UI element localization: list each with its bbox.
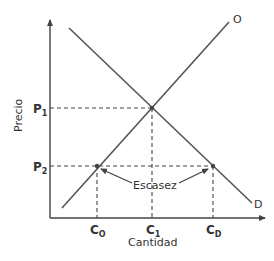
shortage-arrow-left xyxy=(101,169,132,183)
svg-text:CO: CO xyxy=(90,223,106,239)
tick-c0: CO xyxy=(90,223,106,239)
shortage-label: Escasez xyxy=(133,179,177,192)
tick-c1: C1 xyxy=(146,223,161,239)
y-axis-title: Precio xyxy=(12,98,25,132)
shortage-arrow-right xyxy=(179,169,208,183)
svg-text:P2: P2 xyxy=(33,160,47,176)
tick-cd: CD xyxy=(206,223,222,239)
supply-point-p2 xyxy=(95,164,99,168)
tick-p1: P1 xyxy=(33,102,48,118)
supply-demand-diagram: Escasez O D Precio Cantidad P1 P2 CO C1 … xyxy=(0,0,274,261)
guide-lines xyxy=(50,108,213,218)
supply-label: O xyxy=(233,13,242,26)
demand-label: D xyxy=(254,198,262,211)
svg-text:CD: CD xyxy=(206,223,222,239)
demand-point-p2 xyxy=(211,164,215,168)
svg-text:P1: P1 xyxy=(33,102,48,118)
x-axis-title: Cantidad xyxy=(128,236,177,249)
svg-text:C1: C1 xyxy=(146,223,161,239)
tick-p2: P2 xyxy=(33,160,47,176)
equilibrium-point xyxy=(150,106,154,110)
